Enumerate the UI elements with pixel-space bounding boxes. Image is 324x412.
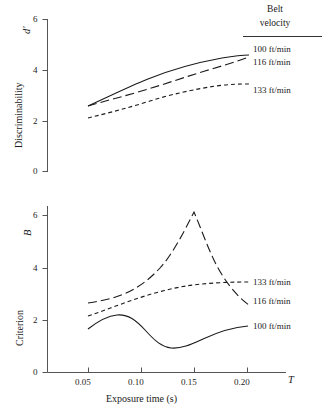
- y-tick-label-top-0: 0: [33, 166, 38, 176]
- legend-header-line2: velocity: [245, 18, 305, 28]
- y-tick-label-bottom-6: 6: [33, 210, 38, 220]
- y-tick-label-top-4: 4: [33, 65, 38, 75]
- series-line-bottom-133: [88, 282, 249, 316]
- legend-entry-top-100: 100 ft/min: [253, 44, 291, 54]
- legend-entry-bottom-133: 133 ft/min: [253, 277, 291, 287]
- panel-criterion: [43, 206, 287, 373]
- legend-entry-bottom-116: 116 ft/min: [253, 296, 290, 306]
- x-axis-title: Exposure time (s): [106, 393, 177, 404]
- x-axis-symbol-t: T: [288, 374, 294, 385]
- y-tick-label-top-6: 6: [33, 14, 38, 24]
- series-line-top-133: [88, 84, 249, 118]
- figure-container: 6 4 2 0 d′ Discriminability Belt velocit…: [0, 0, 324, 412]
- y-axis-title-discriminability: Discriminability: [13, 82, 24, 148]
- legend-entry-top-133: 133 ft/min: [253, 85, 291, 95]
- series-line-bottom-116: [88, 212, 249, 305]
- x-tick-label-005: 0.05: [75, 377, 91, 387]
- y-axis-symbol-dprime: d′: [21, 26, 32, 34]
- series-line-bottom-100: [88, 315, 248, 348]
- y-axis-title-criterion: Criterion: [14, 310, 25, 346]
- y-tick-label-bottom-2: 2: [33, 315, 38, 325]
- series-line-top-100: [88, 55, 249, 106]
- y-tick-label-top-2: 2: [33, 116, 38, 126]
- legend-entry-top-116: 116 ft/min: [253, 57, 290, 67]
- legend-header-line1: Belt: [253, 4, 297, 14]
- y-tick-label-bottom-0: 0: [33, 367, 38, 377]
- x-tick-label-015: 0.15: [181, 377, 197, 387]
- panel-discriminability: [43, 19, 323, 172]
- y-tick-label-bottom-4: 4: [33, 263, 38, 273]
- legend-entry-bottom-100: 100 ft/min: [253, 321, 291, 331]
- y-axis-symbol-b: B: [22, 230, 33, 236]
- x-tick-label-020: 0.20: [234, 377, 250, 387]
- x-tick-label-010: 0.10: [128, 377, 144, 387]
- series-line-top-116: [88, 57, 249, 106]
